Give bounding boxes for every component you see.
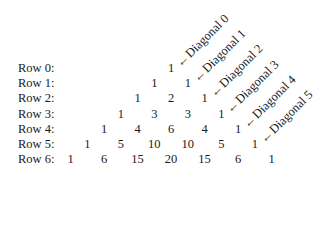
triangle-entry: 2 xyxy=(156,91,186,105)
triangle-entry: 4 xyxy=(190,122,220,136)
triangle-entry: 1 xyxy=(72,137,102,151)
triangle-entry: 1 xyxy=(106,107,136,121)
triangle-entry: 1 xyxy=(257,152,287,166)
triangle-entry: 1 xyxy=(139,76,169,90)
row-label: Row 6: xyxy=(18,152,54,166)
triangle-entry: 5 xyxy=(206,137,236,151)
triangle-entry: 3 xyxy=(173,107,203,121)
triangle-entry: 4 xyxy=(123,122,153,136)
triangle-entry: 15 xyxy=(190,152,220,166)
triangle-entry: 5 xyxy=(106,137,136,151)
triangle-entry: 6 xyxy=(223,152,253,166)
triangle-entry: 10 xyxy=(139,137,169,151)
triangle-entry: 15 xyxy=(123,152,153,166)
row-label: Row 5: xyxy=(18,137,54,151)
triangle-entry: 1 xyxy=(123,91,153,105)
triangle-entry: 6 xyxy=(156,122,186,136)
row-label: Row 0: xyxy=(18,61,54,75)
triangle-entry: 3 xyxy=(139,107,169,121)
triangle-entry: 1 xyxy=(56,152,86,166)
row-label: Row 3: xyxy=(18,107,54,121)
triangle-entry: 1 xyxy=(89,122,119,136)
triangle-entry: 10 xyxy=(173,137,203,151)
row-label: Row 4: xyxy=(18,122,54,136)
triangle-entry: 6 xyxy=(89,152,119,166)
triangle-entry: 20 xyxy=(156,152,186,166)
row-label: Row 2: xyxy=(18,91,54,105)
row-label: Row 1: xyxy=(18,76,54,90)
